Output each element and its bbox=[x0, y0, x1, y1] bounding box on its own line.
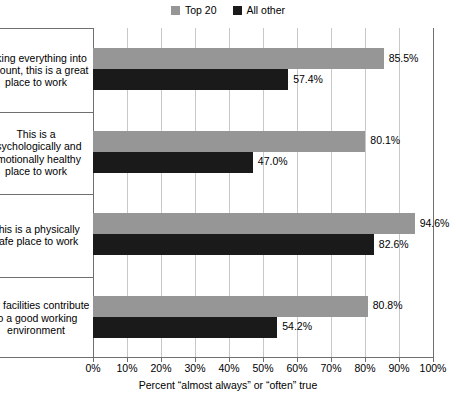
category-label-0: Taking everything into account, this is … bbox=[0, 29, 93, 112]
category-separator bbox=[0, 277, 93, 278]
bar-top20-0 bbox=[93, 48, 384, 69]
category-separator bbox=[0, 194, 93, 195]
category-label-column: Taking everything into account, this is … bbox=[0, 28, 94, 358]
bar-value-label: 47.0% bbox=[258, 156, 288, 167]
legend-label-top20: Top 20 bbox=[185, 5, 217, 16]
bar-value-label: 94.6% bbox=[420, 218, 450, 229]
bar-value-label: 80.8% bbox=[373, 300, 403, 311]
legend-item-top20: Top 20 bbox=[171, 5, 217, 16]
legend-label-all-other: All other bbox=[247, 5, 286, 16]
bar-all-other-0 bbox=[93, 69, 288, 90]
bar-top20-2 bbox=[93, 213, 415, 234]
gridline-100% bbox=[433, 28, 434, 358]
bar-value-label: 85.5% bbox=[389, 53, 419, 64]
x-tick-label-100%: 100% bbox=[413, 362, 453, 374]
bar-chart: Top 20 All other Taking everything into … bbox=[0, 0, 456, 403]
bar-top20-3 bbox=[93, 296, 368, 317]
chart-legend: Top 20 All other bbox=[0, 2, 456, 18]
legend-item-all-other: All other bbox=[233, 5, 286, 16]
bar-top20-1 bbox=[93, 131, 365, 152]
category-label-3: Our facilities contribute to a good work… bbox=[0, 277, 93, 360]
plot-area: 85.5%57.4%80.1%47.0%94.6%82.6%80.8%54.2% bbox=[93, 28, 433, 358]
bar-value-label: 82.6% bbox=[379, 239, 409, 250]
bar-all-other-2 bbox=[93, 234, 374, 255]
category-label-2: This is a physically safe place to work bbox=[0, 194, 93, 277]
legend-swatch-top20 bbox=[171, 6, 180, 15]
legend-swatch-all-other bbox=[233, 6, 242, 15]
bar-value-label: 80.1% bbox=[370, 135, 400, 146]
category-label-1: This is a psychologically and emotionall… bbox=[0, 112, 93, 195]
bar-all-other-1 bbox=[93, 152, 253, 173]
bar-value-label: 57.4% bbox=[293, 74, 323, 85]
bar-all-other-3 bbox=[93, 317, 277, 338]
bar-value-label: 54.2% bbox=[282, 321, 312, 332]
x-axis-title: Percent “almost always” or “often” true bbox=[0, 379, 456, 391]
category-separator bbox=[0, 112, 93, 113]
